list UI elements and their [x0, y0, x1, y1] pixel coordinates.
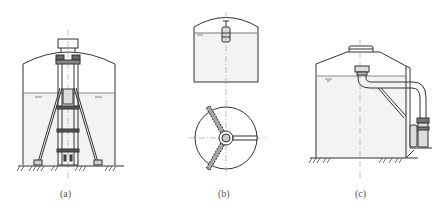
panel-c-tank: [309, 40, 432, 180]
panel-b-plan-view: [188, 100, 266, 176]
panel-c-label: (c): [355, 188, 366, 199]
panel-b-label: (b): [218, 188, 230, 199]
diagram-canvas: [0, 0, 445, 215]
panel-b-elevation: [194, 12, 258, 100]
panel-a-label: (a): [60, 188, 71, 199]
panel-a-tank: [17, 30, 124, 178]
